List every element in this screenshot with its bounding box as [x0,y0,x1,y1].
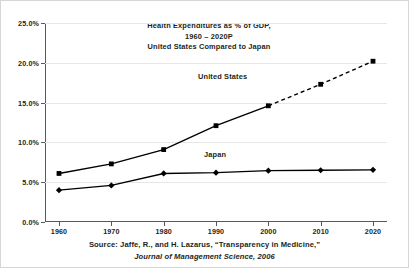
data-point-united-states [109,161,114,166]
data-point-japan [213,170,219,176]
source-note: Source: Jaffe, R., and H. Lazarus, “Tran… [1,239,408,262]
y-axis-tick-label: 15.0% [18,98,39,107]
data-point-united-states [318,82,323,87]
y-axis-tick-label: 25.0% [18,19,39,28]
x-axis-tick [373,222,374,226]
source-note-line-1: Source: Jaffe, R., and H. Lazarus, “Tran… [1,239,408,251]
series-label-united-states: United States [198,72,247,81]
data-point-united-states [57,171,62,176]
data-point-united-states [266,103,271,108]
x-axis-tick [164,222,165,226]
data-point-japan [370,167,376,173]
x-axis-tick [111,222,112,226]
x-axis-tick [268,222,269,226]
x-axis-tick [59,222,60,226]
data-point-united-states [214,123,219,128]
plot-area: 0.0%5.0%10.0%15.0%20.0%25.0% 19601970198… [45,23,387,222]
x-axis-tick [321,222,322,226]
source-note-line-2: Journal of Management Science, 2006 [1,251,408,263]
data-point-united-states [161,147,166,152]
x-axis-tick-label: 2000 [260,227,276,236]
x-axis-tick-label: 1990 [208,227,224,236]
y-axis-tick-label: 10.0% [18,138,39,147]
x-axis-tick-label: 2020 [365,227,381,236]
series-label-japan: Japan [204,150,226,159]
series-line-united-states [59,106,268,174]
x-axis-tick-label: 1970 [103,227,119,236]
y-axis-tick-label: 20.0% [18,58,39,67]
chart-figure: Health Expenditures as % of GDP, 1960 – … [0,0,409,268]
x-axis-tick-label: 1960 [51,227,67,236]
data-point-japan [161,170,167,176]
x-axis-tick-label: 2010 [312,227,328,236]
y-axis-tick-label: 0.0% [22,218,39,227]
data-point-united-states [371,59,376,64]
data-point-japan [265,168,271,174]
x-axis-tick [216,222,217,226]
data-point-japan [318,167,324,173]
y-axis-tick-label: 5.0% [22,178,39,187]
data-point-japan [56,187,62,193]
data-point-japan [108,182,114,188]
x-axis-tick-label: 1980 [155,227,171,236]
chart-series-canvas [45,23,387,222]
y-axis-tick [41,222,45,223]
